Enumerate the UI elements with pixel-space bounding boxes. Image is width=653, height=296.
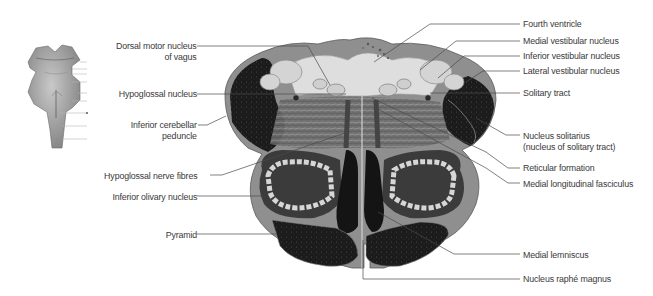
label-inferior-cerebellar-peduncle: Inferior cerebellar peduncle [131, 119, 197, 141]
medulla-cross-section-figure: Dorsal motor nucleus of vagus Hypoglossa… [0, 0, 653, 296]
label-hypoglossal-nerve-fibres: Hypoglossal nerve fibres [104, 170, 197, 181]
brainstem-thumbnail [28, 45, 88, 148]
label-nucleus-solitarius: Nucleus solitarius (nucleus of solitary … [523, 130, 615, 152]
label-medial-vestibular-nucleus: Medial vestibular nucleus [523, 35, 619, 46]
label-lateral-vestibular-nucleus: Lateral vestibular nucleus [523, 65, 620, 76]
label-solitary-tract: Solitary tract [523, 87, 570, 98]
label-reticular-formation: Reticular formation [523, 162, 594, 173]
label-hypoglossal-nucleus: Hypoglossal nucleus [119, 88, 197, 99]
label-nucleus-raphe-magnus: Nucleus raphé magnus [523, 273, 611, 284]
label-inferior-vestibular-nucleus: Inferior vestibular nucleus [523, 50, 620, 61]
label-dorsal-motor-nucleus-of-vagus: Dorsal motor nucleus of vagus [116, 40, 197, 62]
medulla-section [225, 38, 496, 268]
label-fourth-ventricle: Fourth ventricle [523, 18, 582, 29]
label-medial-longitudinal-fasciculus: Medial longitudinal fasciculus [523, 178, 633, 189]
label-pyramid: Pyramid [166, 229, 197, 240]
label-medial-lemniscus: Medial lemniscus [523, 249, 588, 260]
leader-inferior-cerebellar-peduncle [198, 116, 226, 125]
label-inferior-olivary-nucleus: Inferior olivary nucleus [112, 191, 197, 202]
